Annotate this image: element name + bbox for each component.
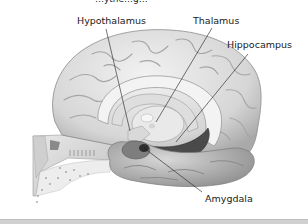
brain-illustration [0,0,308,224]
label-hypothalamus: Hypothalamus [77,16,146,26]
bottom-border [0,219,308,224]
amygdala-structure [122,141,150,159]
olfactory-region [33,135,118,203]
label-hippocampus: Hippocampus [227,40,292,50]
label-amygdala: Amygdala [205,194,253,204]
cropped-title: …ythe…g… [95,0,148,4]
label-thalamus: Thalamus [193,16,239,26]
brain-diagram: …ythe…g… [0,0,308,224]
